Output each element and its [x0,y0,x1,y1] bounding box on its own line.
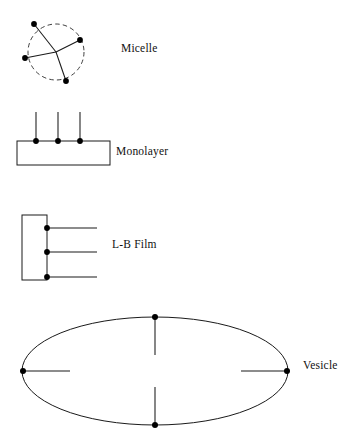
monolayer-headgroup-dot [77,138,83,144]
vesicle-tails [23,317,287,425]
micelle-tails [25,24,80,81]
micelle-tail-3 [25,52,56,58]
vesicle-headgroup-dot [152,422,158,428]
monolayer-tails [36,112,80,141]
micelle-tail-1 [34,24,56,52]
micelle-group [22,21,84,84]
lb-film-headgroup-dot [44,225,50,231]
micelle-headgroup-dot [31,21,37,27]
vesicle-headgroup-dot [284,368,290,374]
micelle-label: Micelle [121,42,158,55]
vesicle-label: Vesicle [303,359,338,372]
amphiphile-structures-diagram: Micelle Monolayer L-B Film Vesicle [0,0,354,438]
monolayer-headgroup-dot [55,138,61,144]
micelle-tail-4 [56,52,66,81]
monolayer-headgroup-dot [33,138,39,144]
micelle-headgroup-dot [63,78,69,84]
lb-film-headgroup-dot [44,274,50,280]
lb-film-headgroup-dot [44,249,50,255]
vesicle-group [20,314,290,428]
micelle-headgroup-dot [77,37,83,43]
lb-film-tails [47,228,97,277]
monolayer-substrate-rect [17,141,110,165]
lb-film-substrate-rect [22,215,47,280]
lb-film-label: L-B Film [112,238,157,251]
vesicle-headgroup-dot [152,314,158,320]
micelle-headgroup-dot [22,55,28,61]
diagram-canvas [0,0,354,438]
monolayer-group [17,112,110,165]
lb-film-group [22,215,97,280]
micelle-tail-2 [56,40,80,52]
vesicle-headgroup-dot [20,368,26,374]
monolayer-label: Monolayer [116,145,168,158]
